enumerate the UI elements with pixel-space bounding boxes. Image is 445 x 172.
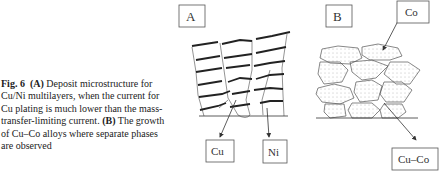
cu-callout: Cu [211,145,224,157]
multilayer-deposit [192,32,290,118]
panel-b: B Co Cu–Co [316,1,438,170]
ni-arrow [267,108,269,137]
alloy-grains [316,44,420,118]
ni-callout: Ni [268,146,279,158]
panel-b-label: B [333,9,342,24]
cu-co-callout: Cu–Co [398,153,430,165]
co-arrow [383,21,398,50]
panel-a-label: A [186,9,196,24]
figure-diagrams: A Cu [0,0,445,172]
cu-arrow [220,100,236,137]
panel-a: A Cu [179,5,290,163]
co-callout: Co [405,6,418,18]
